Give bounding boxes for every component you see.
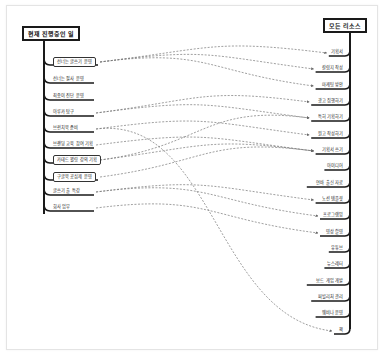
work-item[interactable]: 구글북 공심제 운영 — [53, 172, 96, 182]
resource-item[interactable]: 보드 게임 개발 — [316, 278, 343, 284]
resource-item[interactable]: 영상 촬영 — [326, 229, 343, 235]
resource-item[interactable]: 노션 템플릿 — [322, 196, 343, 202]
resource-item[interactable]: 퍼빌리처 관리 — [318, 294, 343, 300]
current-work-root: 현재 진행중인 일 — [22, 26, 80, 41]
work-item[interactable]: 아루카 탐구 — [53, 109, 74, 115]
work-item[interactable]: 선너는 글쓰기 운영 — [53, 57, 96, 67]
resource-item[interactable]: 기획서 — [331, 49, 343, 55]
resource-item[interactable]: 아이디어 — [327, 163, 343, 169]
work-item[interactable]: 브랜딩 교육 참여 기획 — [53, 141, 93, 147]
resource-item[interactable]: 원고 작성하기 — [318, 131, 343, 137]
work-item[interactable]: 회사 업무 — [53, 204, 70, 210]
all-resources-title: 모든 리소스 — [329, 22, 361, 29]
resource-item[interactable]: 유튜브 — [331, 245, 343, 251]
resource-item[interactable]: 책 — [339, 327, 343, 333]
work-item[interactable]: 브런치북 준비 — [53, 125, 78, 131]
tree-lines — [44, 31, 350, 334]
dashed-connections — [96, 46, 332, 331]
resource-item[interactable]: 특허 기획하기 — [318, 114, 343, 120]
resource-item[interactable]: 기획서 쓰기 — [322, 147, 343, 153]
resource-item[interactable]: 칼럼지 작성 — [322, 65, 343, 71]
resource-item[interactable]: 광고 집행하기 — [318, 98, 343, 104]
all-resources-root: 모든 리소스 — [323, 18, 367, 33]
current-work-title: 현재 진행중인 일 — [28, 30, 74, 37]
resource-item[interactable]: 뉴스레터 — [327, 261, 343, 267]
work-item[interactable]: 선너는 필사 운영 — [53, 76, 84, 82]
resource-item[interactable]: 연바 출신 자료 — [316, 180, 343, 186]
resource-item[interactable]: 마케팅 방안 — [322, 82, 343, 88]
resource-item[interactable]: 프로그램밍 — [323, 212, 343, 218]
resource-item[interactable]: 웨비나 운영 — [322, 310, 343, 316]
work-item[interactable]: 카테드 웰링 강의 기획 — [53, 155, 101, 165]
work-item[interactable]: 최종이 진단 운영 — [53, 93, 84, 99]
work-item[interactable]: 글쓰기 출 특강 — [53, 188, 80, 194]
